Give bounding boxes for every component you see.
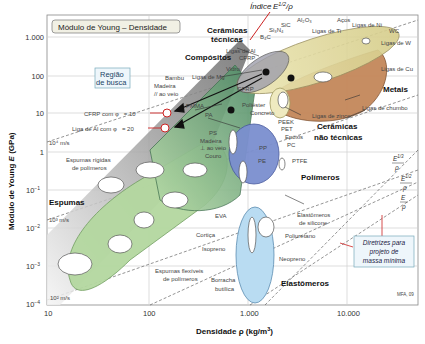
wc-ellipse bbox=[362, 38, 370, 44]
y-tick: 10−1 bbox=[26, 185, 40, 195]
x-tick: 10 bbox=[44, 309, 52, 318]
y-tick: 100 bbox=[31, 72, 44, 81]
label-vidro: Vidro bbox=[226, 66, 241, 72]
label-pp: PP bbox=[259, 145, 267, 151]
label-composites: Compósitos bbox=[185, 53, 232, 62]
y-tick: 10−2 bbox=[26, 223, 40, 233]
label-cork: Cortiça bbox=[196, 232, 216, 238]
label-cfrp: CFRP bbox=[239, 55, 255, 61]
label-v2: 10² m/s bbox=[50, 295, 70, 301]
y-tick: 1 bbox=[40, 148, 44, 157]
x-axis-title: Densidade ρ (kg/m3) bbox=[196, 326, 273, 336]
guidelines-caption: Diretrizes para bbox=[363, 239, 406, 247]
foam-ellipse bbox=[98, 177, 124, 193]
label-flex-foams: de polímeros bbox=[163, 276, 198, 282]
label-poliuretano: Poliuretano bbox=[285, 233, 316, 239]
label-poliester: Poliéster bbox=[242, 102, 265, 108]
label-nontech-ceramics: Cerâmicas bbox=[317, 122, 358, 131]
label-gfrp: GFRP bbox=[237, 86, 254, 92]
chart-title: Módulo de Young – Densidade bbox=[58, 23, 168, 32]
label-pb: Ligas de chumbo bbox=[362, 105, 408, 111]
label-eva: EVA bbox=[215, 213, 227, 219]
y-axis-title: Módulo de Young E (GPa) bbox=[7, 132, 16, 230]
y-tick: 10−4 bbox=[26, 299, 40, 309]
foam-ellipse bbox=[58, 253, 92, 275]
guidelines-caption: massa mínima bbox=[363, 257, 406, 264]
label-ni: Ligas de Ni bbox=[352, 22, 382, 28]
y-tick: 1.000 bbox=[25, 33, 44, 42]
x-tick: 10.000 bbox=[337, 309, 360, 318]
index-formula: E1/2/ρ bbox=[273, 1, 293, 11]
credit: MFA, 09 bbox=[397, 292, 414, 297]
label-pmma: PMMA bbox=[186, 103, 204, 109]
label-ptfe: PTFE bbox=[292, 158, 307, 164]
eva-ellipse bbox=[248, 217, 256, 253]
label-al2o3: Al₂O₃ bbox=[297, 17, 312, 23]
label-b4c: B₄C bbox=[260, 34, 271, 40]
x-tick: 1.000 bbox=[240, 309, 259, 318]
label-madeira-parallel: // ao veio bbox=[154, 91, 179, 97]
label-couro: Couro bbox=[205, 153, 222, 159]
label-isopreno: Isopreno bbox=[202, 246, 226, 252]
foam-ellipse bbox=[136, 162, 164, 178]
wood-ellipse bbox=[229, 130, 237, 154]
label-technical-ceramics: Cerâmicas bbox=[207, 26, 248, 35]
label-epoxis: Epóxis bbox=[285, 134, 303, 140]
label-pet: PET bbox=[281, 126, 293, 132]
label-metals: Metais bbox=[383, 85, 408, 94]
y-tick: 10−3 bbox=[26, 261, 40, 271]
label-mg: Ligas de Mg bbox=[192, 74, 225, 80]
x-tick: 100 bbox=[143, 309, 156, 318]
label-silicone: Elastômeros bbox=[297, 212, 330, 218]
foam-ellipse bbox=[162, 192, 188, 208]
label-al: Ligas de Al bbox=[226, 48, 255, 54]
label-madeira-perp: ⊥ ao veio bbox=[200, 145, 227, 151]
guide-e: E bbox=[401, 194, 406, 201]
label-ps: PS bbox=[209, 130, 217, 136]
label-zn: Ligas de zinco bbox=[312, 113, 351, 119]
label-silicone: de silicone bbox=[299, 220, 328, 226]
foam-ellipse bbox=[183, 163, 207, 177]
ashby-chart: Módulo de Young – Densidade Região de bu… bbox=[0, 0, 425, 344]
label-sic: SiC bbox=[281, 22, 291, 28]
label-w: Ligas de W bbox=[381, 40, 411, 46]
label-flex-foams: Espumas flexíveis bbox=[155, 268, 203, 274]
label-al-point: Liga de Al com φ= 20 bbox=[72, 126, 134, 132]
label-ti: Ligas de Ti bbox=[312, 28, 341, 34]
label-cfrp-point: CFRP com φ= 10 bbox=[84, 111, 136, 117]
label-wc: WC bbox=[389, 28, 400, 34]
label-acos: Aços bbox=[337, 17, 350, 23]
label-neopreno: Neopreno bbox=[279, 256, 306, 262]
ptfe-ellipse bbox=[279, 158, 285, 170]
label-butil: Borracha bbox=[211, 277, 236, 283]
label-rigid-foams: Espumas rígidas bbox=[66, 157, 111, 163]
guide-rho: ρ bbox=[394, 164, 399, 172]
label-pe: PE bbox=[258, 158, 266, 164]
label-rigid-foams: de polímeros bbox=[72, 165, 107, 171]
leather-ellipse bbox=[239, 161, 247, 183]
label-bambu: Bambu bbox=[165, 75, 184, 81]
search-region-label: de busca bbox=[96, 78, 127, 87]
label-pc: PC bbox=[287, 142, 296, 148]
guide-rho: ρ bbox=[401, 203, 406, 211]
label-cu: Ligas de Cu bbox=[381, 66, 413, 72]
label-madeira-perp: Madeira bbox=[200, 138, 222, 144]
foam-ellipse bbox=[134, 212, 154, 228]
label-foams: Espumas bbox=[49, 198, 85, 207]
label-nontech-ceramics: não técnicas bbox=[314, 133, 363, 142]
metals-ellipse bbox=[314, 72, 332, 82]
concrete-ellipse bbox=[278, 92, 288, 108]
label-concreto: Concreto bbox=[250, 110, 275, 116]
label-madeira-parallel: Madeira bbox=[154, 83, 176, 89]
guidelines-caption: projeto de bbox=[369, 248, 399, 256]
index-word: Índice bbox=[250, 2, 272, 11]
label-v4: 10⁴ m/s bbox=[49, 140, 70, 146]
foam-ellipse bbox=[108, 235, 132, 253]
label-butil: butílica bbox=[215, 286, 235, 292]
polymers-region bbox=[229, 124, 279, 184]
label-pa: PA bbox=[205, 112, 213, 118]
label-polymers: Polímeros bbox=[301, 173, 340, 182]
label-elastomers: Elastômeros bbox=[281, 279, 330, 288]
silicone-ellipse bbox=[258, 217, 274, 237]
guide-rho: ρ bbox=[402, 184, 407, 192]
